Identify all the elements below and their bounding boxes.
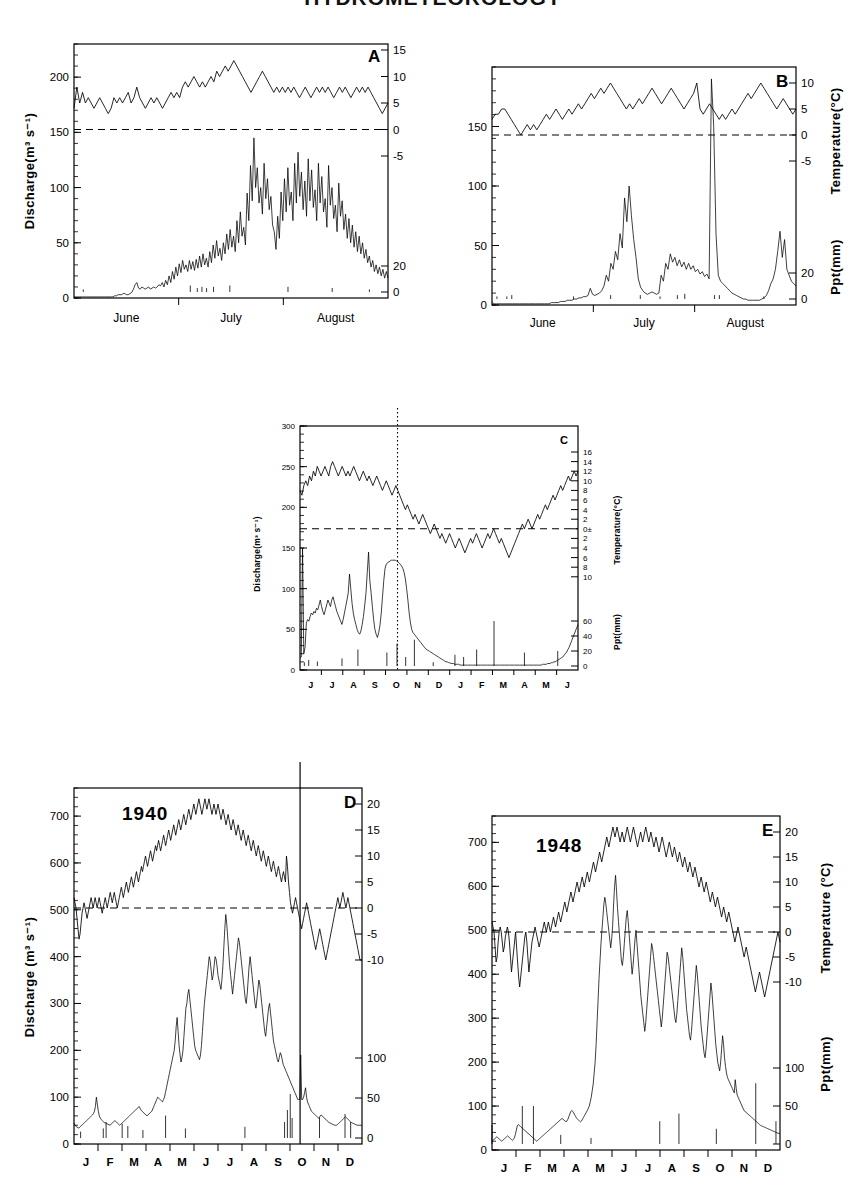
- temperature-trace: [74, 799, 362, 960]
- precipitation-bars: [83, 286, 369, 293]
- month-label: O: [393, 680, 400, 690]
- temp-tick-label: 10: [801, 77, 814, 89]
- temp-tick-label: 0: [367, 902, 373, 914]
- temp-tick-label: 10: [583, 477, 592, 486]
- precipitation-bars: [492, 1083, 776, 1144]
- temp-tick-label: 15: [367, 824, 380, 836]
- month-label: A: [572, 1162, 580, 1174]
- temp-axis-title: Temperature(°C): [828, 87, 843, 194]
- month-label: J: [308, 680, 313, 690]
- month-label: M: [547, 1162, 557, 1174]
- discharge-trace: [74, 138, 388, 297]
- temp-tick-label: 6: [583, 554, 588, 563]
- month-label: J: [227, 1156, 233, 1168]
- precipitation-bars: [81, 1094, 351, 1138]
- temp-tick-label: 20: [367, 798, 380, 810]
- month-label: F: [479, 680, 485, 690]
- y-tick-label: 200: [50, 1044, 69, 1056]
- temp-tick-label: 15: [393, 44, 406, 56]
- temp-tick-label: 0: [801, 129, 807, 141]
- month-label: J: [83, 1156, 89, 1168]
- panel-a: 050100150200Discharge(m³ s⁻¹)151050-5200…: [16, 30, 436, 340]
- temp-tick-label: 5: [801, 103, 807, 115]
- ppt-axis-title: Ppt(mm): [612, 614, 622, 650]
- ppt-tick-label: 20: [583, 647, 592, 656]
- y-tick-label: 500: [50, 904, 69, 916]
- ppt-tick-label: 0: [367, 1132, 373, 1144]
- month-label: O: [298, 1156, 307, 1168]
- month-label: A: [250, 1156, 258, 1168]
- month-label: D: [346, 1156, 354, 1168]
- y-tick-label: 600: [468, 880, 487, 892]
- y-tick-label: 700: [50, 810, 69, 822]
- temp-tick-label: 10: [367, 850, 380, 862]
- ppt-axis-title: Ppt(mm): [818, 1036, 833, 1092]
- month-label: J: [621, 1162, 627, 1174]
- month-label: July: [220, 311, 241, 325]
- temp-axis-title: Temperature(°C): [612, 495, 622, 564]
- temp-tick-label: 20: [785, 826, 798, 838]
- ppt-tick-label: 0: [801, 293, 807, 305]
- temp-tick-label: 12: [583, 467, 592, 476]
- month-label: S: [274, 1156, 282, 1168]
- temp-tick-label: 5: [367, 876, 373, 888]
- ppt-tick-label: 100: [367, 1052, 386, 1064]
- temp-tick-label: -5: [393, 150, 403, 162]
- month-label: O: [716, 1162, 725, 1174]
- y-tick-label: 250: [282, 463, 296, 472]
- panel-c-svg: 050100150200250300Discharge(m³ s⁻¹)16141…: [238, 408, 638, 708]
- y-tick-label: 50: [474, 240, 487, 252]
- temperature-trace: [74, 61, 388, 114]
- temp-axis-title: Temperature (°C): [818, 862, 833, 973]
- y-tick-label: 200: [50, 71, 69, 83]
- temp-tick-label: 5: [785, 901, 791, 913]
- month-label: M: [129, 1156, 139, 1168]
- y-tick-label: 100: [282, 585, 296, 594]
- month-label: August: [317, 311, 355, 325]
- month-label: M: [542, 680, 550, 690]
- discharge-trace: [492, 79, 796, 304]
- month-label: J: [458, 680, 463, 690]
- temp-tick-label: 4: [583, 544, 588, 553]
- y-tick-label: 200: [468, 1056, 487, 1068]
- temp-tick-label: 0: [785, 926, 791, 938]
- y-tick-label: 600: [50, 857, 69, 869]
- month-label: M: [177, 1156, 187, 1168]
- temp-tick-label: 0±: [583, 525, 592, 534]
- month-label: F: [106, 1156, 113, 1168]
- plot-frame: [74, 788, 362, 1144]
- month-label: N: [414, 680, 421, 690]
- panel-letter: B: [776, 72, 788, 91]
- month-label: N: [740, 1162, 748, 1174]
- y-tick-label: 100: [468, 180, 487, 192]
- y-tick-label: 700: [468, 836, 487, 848]
- y-tick-label: 500: [468, 924, 487, 936]
- temp-tick-label: 0: [393, 124, 399, 136]
- figure-page: HYDROMETEOROLOGY 050100150200Discharge(m…: [0, 0, 866, 1200]
- y-tick-label: 100: [50, 182, 69, 194]
- y-tick-label: 0: [481, 1144, 487, 1156]
- month-label: M: [499, 680, 507, 690]
- month-label: A: [521, 680, 528, 690]
- y-axis-title: Discharge (m³ s⁻¹): [22, 917, 37, 1037]
- month-label: S: [692, 1162, 700, 1174]
- ppt-axis-title: Ppt(mm): [828, 239, 843, 295]
- ppt-tick-label: 100: [785, 1062, 804, 1074]
- ppt-tick-label: 0: [393, 286, 399, 298]
- temp-tick-label: -5: [801, 155, 811, 167]
- y-tick-label: 0: [63, 292, 69, 304]
- month-label: A: [154, 1156, 162, 1168]
- temp-tick-label: -5: [367, 928, 377, 940]
- temp-tick-label: 6: [583, 496, 588, 505]
- panel-a-svg: 050100150200Discharge(m³ s⁻¹)151050-5200…: [16, 30, 436, 340]
- month-label: A: [350, 680, 357, 690]
- panel-d: 0100200300400500600700Discharge (m³ s⁻¹)…: [14, 762, 434, 1192]
- temp-tick-label: -10: [367, 954, 384, 966]
- panel-letter: D: [344, 793, 356, 812]
- month-label: S: [372, 680, 378, 690]
- temperature-trace: [492, 83, 796, 135]
- month-label: June: [530, 316, 556, 330]
- y-tick-label: 300: [282, 422, 296, 431]
- y-tick-label: 200: [282, 503, 296, 512]
- month-label: N: [322, 1156, 330, 1168]
